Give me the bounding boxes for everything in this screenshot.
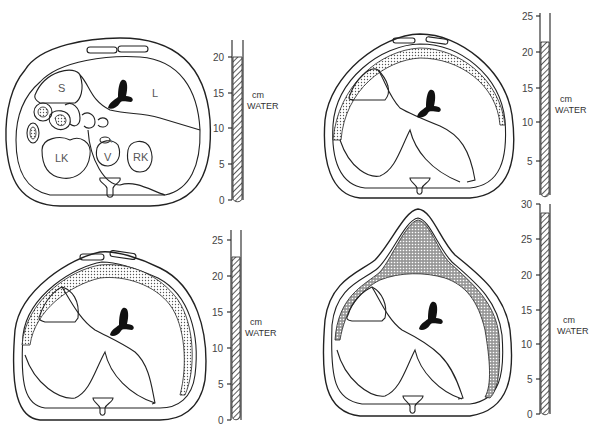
svg-text:15: 15 (521, 305, 533, 316)
unit-cm: cm (250, 317, 262, 327)
svg-text:15: 15 (522, 83, 534, 94)
liver-boundary (80, 75, 200, 130)
svg-text:10: 10 (212, 343, 224, 354)
gauge-ticks: 0 5 10 15 20 (213, 52, 232, 206)
svg-text:20: 20 (212, 271, 224, 282)
svg-text:0: 0 (218, 415, 224, 426)
bowel-loops (27, 103, 108, 143)
unit-water: WATER (557, 326, 589, 336)
svg-text:5: 5 (218, 379, 224, 390)
unit-cm: cm (252, 90, 264, 100)
svg-text:20: 20 (213, 52, 225, 63)
vertebra (93, 398, 113, 415)
figure-canvas: S L LK V RK A 0 5 10 15 20 cm WATER (0, 0, 600, 435)
label-aorta: A (108, 138, 112, 144)
svg-text:5: 5 (527, 374, 533, 385)
panel-1: S L LK V RK A 0 5 10 15 20 cm WATER (6, 38, 279, 206)
svg-text:25: 25 (522, 11, 534, 22)
label-spleen: S (58, 82, 65, 94)
svg-text:25: 25 (212, 235, 224, 246)
unit-cm: cm (560, 94, 572, 104)
vessel-black (417, 90, 441, 118)
vertebra (403, 396, 423, 413)
gauge-ticks: 5 10 15 20 25 (522, 11, 540, 167)
pressure-gauge: 0 5 10 15 20 25 cm WATER (212, 230, 277, 426)
label-vertebra: V (104, 151, 112, 163)
svg-text:10: 10 (522, 117, 534, 128)
svg-text:10: 10 (213, 123, 225, 134)
svg-text:15: 15 (212, 307, 224, 318)
svg-text:0: 0 (527, 409, 533, 420)
liver-boundary (62, 287, 155, 404)
unit-water: WATER (247, 101, 279, 111)
vessel-black (108, 80, 133, 109)
svg-text:25: 25 (521, 234, 533, 245)
pressure-gauge: 0 5 10 15 20 cm WATER (213, 40, 279, 206)
fluid-collection (335, 220, 500, 398)
panel-4: 0 5 10 15 20 25 30 cm WATER (323, 199, 589, 420)
label-liver: L (152, 87, 158, 99)
vessel-black (419, 302, 443, 330)
spine-recess (340, 130, 460, 182)
panel-2: 5 10 15 20 25 cm WATER (324, 11, 587, 198)
vertebra (410, 178, 430, 194)
unit-cm: cm (563, 315, 575, 325)
spine-recess (337, 350, 462, 399)
label-right-kidney: RK (133, 151, 149, 163)
svg-text:20: 20 (522, 47, 534, 58)
svg-text:20: 20 (521, 270, 533, 281)
svg-text:0: 0 (219, 195, 225, 206)
gauge-ticks: 0 5 10 15 20 25 30 (521, 199, 540, 420)
spleen (347, 287, 386, 321)
label-left-kidney: LK (55, 152, 69, 164)
unit-water: WATER (245, 328, 277, 338)
liver-boundary (372, 287, 463, 399)
svg-text:15: 15 (213, 88, 225, 99)
panel-3: 0 5 10 15 20 25 cm WATER (14, 230, 277, 426)
svg-text:5: 5 (219, 159, 225, 170)
pressure-gauge: 0 5 10 15 20 25 30 cm WATER (521, 199, 589, 420)
svg-text:30: 30 (521, 199, 533, 210)
svg-text:5: 5 (527, 156, 533, 167)
vessel-black (110, 308, 134, 336)
gauge-ticks: 0 5 10 15 20 25 (212, 235, 231, 426)
pressure-gauge: 5 10 15 20 25 cm WATER (522, 11, 587, 197)
unit-water: WATER (555, 105, 587, 115)
svg-text:10: 10 (521, 339, 533, 350)
spine-recess (25, 352, 155, 403)
